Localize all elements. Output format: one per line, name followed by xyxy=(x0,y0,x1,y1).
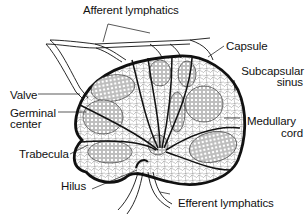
label-capsule: Capsule xyxy=(226,40,268,52)
label-valve: Valve xyxy=(10,89,37,101)
label-efferent-lymphatics: Efferent lymphatics xyxy=(178,197,274,209)
label-subcapsular-sinus-line2: sinus xyxy=(238,76,303,88)
label-medullary-cord-line2: cord xyxy=(247,127,303,139)
label-germinal-center-line2: center xyxy=(10,118,41,130)
label-afferent-lymphatics: Afferent lymphatics xyxy=(83,4,179,16)
label-hilus: Hilus xyxy=(61,180,86,192)
label-medullary-cord-line1: Medullary xyxy=(247,115,296,127)
label-trabecula: Trabecula xyxy=(19,148,69,160)
